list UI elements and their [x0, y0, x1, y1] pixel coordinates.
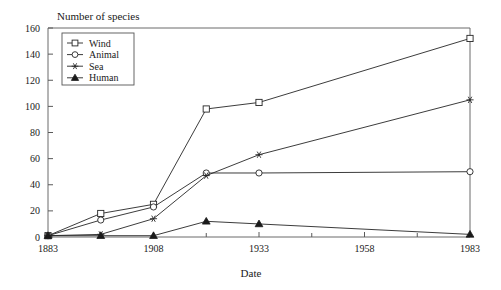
data-point-marker	[97, 232, 105, 239]
data-point-marker	[203, 106, 209, 112]
y-tick-label: 160	[25, 23, 40, 34]
legend-label: Sea	[89, 61, 104, 72]
legend-label: Wind	[89, 38, 111, 49]
y-tick-label: 140	[25, 49, 40, 60]
data-point-marker	[255, 152, 262, 158]
data-point-marker	[256, 99, 262, 105]
data-point-marker	[72, 40, 78, 46]
x-tick-label: 1883	[38, 243, 58, 254]
x-axis-title: Date	[241, 267, 262, 279]
y-tick-label: 40	[30, 179, 40, 190]
legend-label: Human	[89, 72, 118, 83]
y-tick-label: 20	[30, 205, 40, 216]
series-animal	[45, 169, 473, 239]
y-tick-label: 60	[30, 153, 40, 164]
chart-title: Number of species	[57, 10, 139, 22]
data-point-marker	[467, 35, 473, 41]
data-point-marker	[72, 52, 78, 58]
data-point-marker	[202, 217, 210, 224]
x-tick-label: 1958	[355, 243, 375, 254]
x-tick-label: 1983	[460, 243, 480, 254]
data-point-marker	[98, 210, 104, 216]
data-point-marker	[467, 169, 473, 175]
y-tick-label: 80	[30, 127, 40, 138]
y-tick-label: 100	[25, 101, 40, 112]
series-line	[48, 100, 470, 236]
y-tick-label: 0	[35, 232, 40, 243]
data-point-marker	[150, 204, 156, 210]
legend-label: Animal	[89, 49, 119, 60]
chart-container: Number of species 020406080100120140160 …	[0, 0, 501, 290]
y-tick-label: 120	[25, 75, 40, 86]
y-axis: 020406080100120140160	[25, 23, 53, 243]
data-point-marker	[98, 217, 104, 223]
species-line-chart: Number of species 020406080100120140160 …	[0, 0, 501, 290]
x-tick-label: 1933	[249, 243, 269, 254]
series-sea	[44, 97, 473, 239]
x-tick-label: 1908	[144, 243, 164, 254]
chart-legend: WindAnimalSeaHuman	[62, 33, 134, 85]
data-point-marker	[256, 170, 262, 176]
